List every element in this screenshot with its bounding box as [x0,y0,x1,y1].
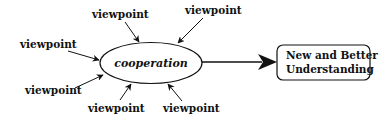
viewpoint-label: viewpoint [184,4,242,16]
viewpoint-bottom-left: viewpoint [24,75,103,96]
viewpoint-left: viewpoint [19,38,99,60]
viewpoint-top-right: viewpoint [178,4,242,43]
viewpoint-label: viewpoint [162,102,220,114]
result-arrow [202,54,277,70]
viewpoint-bottom-right: viewpoint [162,84,220,114]
viewpoint-bottom-center: viewpoint [87,84,145,114]
viewpoint-label: viewpoint [24,84,82,96]
result-node: New and Better Understanding [277,45,378,80]
viewpoint-label: viewpoint [91,8,149,20]
viewpoint-top-left: viewpoint [91,8,149,42]
result-label-line1: New and Better [286,49,378,61]
viewpoint-label: viewpoint [19,38,77,50]
cooperation-diagram: cooperation New and Better Understanding… [0,0,388,121]
viewpoint-label: viewpoint [87,102,145,114]
result-label-line2: Understanding [286,63,375,75]
cooperation-label: cooperation [114,57,188,70]
cooperation-node: cooperation [100,43,202,84]
